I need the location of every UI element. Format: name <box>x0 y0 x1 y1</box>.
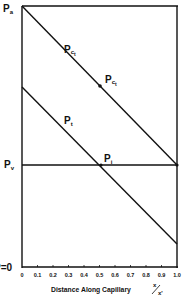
svg-text:0.6: 0.6 <box>111 272 119 278</box>
pv-label: Pv <box>4 159 15 171</box>
pct-point-label: Pct <box>105 74 117 87</box>
svg-text:0.7: 0.7 <box>127 272 135 278</box>
x-fraction-label: x x' <box>152 282 163 296</box>
svg-text:0.3: 0.3 <box>65 272 73 278</box>
svg-text:0.8: 0.8 <box>142 272 150 278</box>
svg-text:0: 0 <box>20 272 23 278</box>
svg-text:x': x' <box>158 290 163 296</box>
svg-text:0.9: 0.9 <box>158 272 166 278</box>
svg-text:0.4: 0.4 <box>80 272 89 278</box>
svg-text:1.0: 1.0 <box>173 272 181 278</box>
svg-text:0.1: 0.1 <box>34 272 42 278</box>
svg-text:0.2: 0.2 <box>49 272 57 278</box>
pt-label: Pt <box>64 115 73 127</box>
svg-text:x: x <box>153 282 157 288</box>
pi-label: Pi <box>104 153 113 165</box>
pct-point-marker <box>98 84 102 88</box>
p-zero-label: P=0 <box>0 262 13 273</box>
svg-text:0.5: 0.5 <box>96 272 104 278</box>
pct-end-marker <box>175 163 178 166</box>
pi-intersection-marker <box>99 163 102 166</box>
capillary-pressure-chart: Pa Pv P=0 Pct Pct Pt Pi 0 0.1 0.2 0.3 0.… <box>0 0 185 301</box>
x-tick-labels: 0 0.1 0.2 0.3 0.4 0.5 0.6 0.7 0.8 0.9 1.… <box>20 272 180 278</box>
x-axis-label: Distance Along Capillary <box>51 286 131 294</box>
pa-label: Pa <box>3 3 14 15</box>
